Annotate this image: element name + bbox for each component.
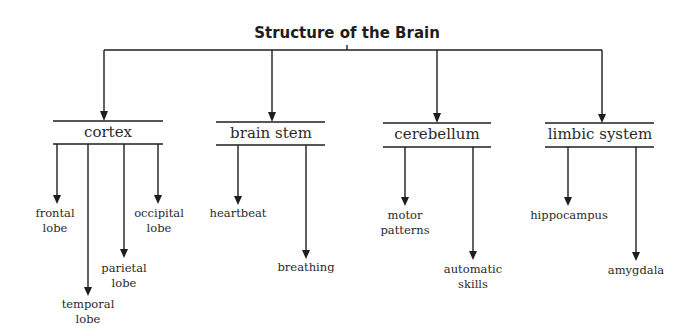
category-brain-stem: brain stem	[230, 124, 312, 142]
leaf-frontal-lobe: frontal lobe	[35, 206, 74, 236]
leaf-temporal-lobe: temporal lobe	[62, 297, 115, 327]
leaf-hippocampus: hippocampus	[530, 208, 608, 223]
category-cerebellum: cerebellum	[394, 125, 479, 143]
leaf-occipital-lobe: occipital lobe	[134, 206, 184, 236]
leaf-breathing: breathing	[278, 260, 335, 275]
leaf-amygdala: amygdala	[608, 263, 664, 278]
category-limbic-system: limbic system	[548, 125, 652, 143]
category-cortex: cortex	[84, 123, 132, 141]
leaf-automatic-skills: automatic skills	[444, 262, 502, 292]
brain-structure-diagram: Structure of the Brain cortex brain stem…	[0, 0, 697, 336]
leaf-heartbeat: heartbeat	[210, 206, 267, 221]
leaf-parietal-lobe: parietal lobe	[101, 261, 146, 291]
diagram-title: Structure of the Brain	[254, 24, 440, 42]
leaf-motor-patterns: motor patterns	[380, 208, 429, 238]
